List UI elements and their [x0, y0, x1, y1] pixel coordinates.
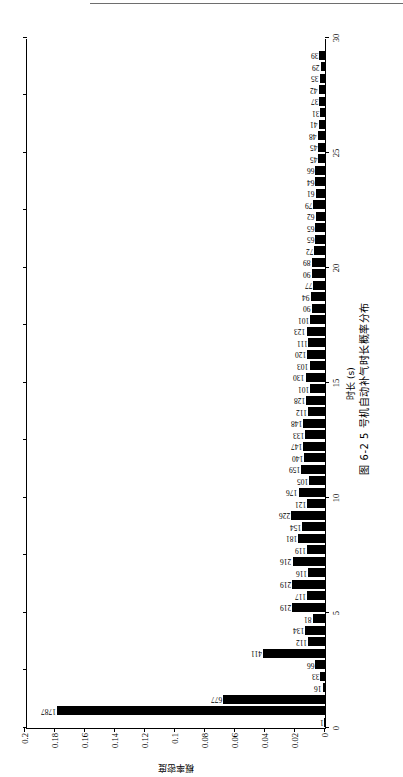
x-axis-minor-tick-top — [23, 210, 27, 211]
bar: 103 — [310, 361, 325, 370]
bar: 101 — [310, 384, 325, 393]
bar: 128 — [306, 396, 325, 405]
bar: 116 — [308, 568, 325, 577]
bar: 219 — [292, 603, 325, 612]
bar: 181 — [298, 534, 325, 543]
y-axis-tick — [234, 728, 235, 732]
bar-value-label: 29 — [312, 62, 320, 71]
bar-value-text: 133 — [293, 430, 304, 439]
bar-value-label: 79 — [305, 200, 313, 209]
bar: 89 — [312, 258, 325, 267]
bar: 77 — [313, 281, 325, 290]
bar-value-text: 35 — [311, 74, 319, 83]
bar-value-label: 62 — [307, 212, 315, 221]
bar-value-text: 66 — [307, 166, 315, 175]
bar-value-text: 45 — [310, 143, 318, 152]
bar-value-label: 147 — [291, 442, 302, 451]
bar-value-text: 45 — [310, 154, 318, 163]
bar-value-text: 29 — [312, 62, 320, 71]
y-axis-tick-label: 0.18 — [50, 733, 60, 748]
bar-value-label: 89 — [303, 258, 311, 267]
bar-value-text: 130 — [293, 373, 304, 382]
bar-value-text: 181 — [286, 534, 297, 543]
bar-value-text: 90 — [303, 269, 311, 278]
y-axis-tick — [84, 728, 85, 732]
bar-value-text: 140 — [292, 453, 303, 462]
bar-value-label: 219 — [280, 603, 291, 612]
bar: 411 — [263, 649, 325, 658]
y-axis-tick-label: 0.16 — [80, 733, 90, 748]
bar: 72 — [314, 246, 325, 255]
bar-value-label: 94 — [302, 292, 310, 301]
bar: 101 — [310, 315, 325, 324]
bar-value-text: 105 — [297, 476, 308, 485]
bar: 41 — [319, 120, 325, 129]
y-axis-tick — [294, 728, 295, 732]
bar-value-text: 159 — [289, 465, 300, 474]
bar: 48 — [318, 131, 325, 140]
bar: 140 — [304, 453, 325, 462]
bar: 33 — [320, 672, 325, 681]
bar: 16 — [323, 683, 325, 692]
x-axis-tick-label: 15 — [331, 379, 341, 388]
x-axis-tick — [325, 612, 329, 613]
x-axis-tick-label: 25 — [331, 149, 341, 158]
bar-value-text: 112 — [296, 637, 307, 646]
x-axis-tick-label: 0 — [331, 726, 341, 730]
x-axis-minor-tick-top — [23, 440, 27, 441]
y-axis-tick — [264, 728, 265, 732]
y-axis-tick — [174, 728, 175, 732]
x-axis-tick-top — [23, 727, 27, 728]
bar: 159 — [301, 465, 325, 474]
bar: 147 — [303, 442, 325, 451]
bar-value-label: 72 — [306, 246, 314, 255]
bar-value-text: 16 — [314, 683, 322, 692]
bar-value-label: 65 — [307, 223, 315, 232]
figure-inner: 00.020.040.060.080.10.120.140.160.180.2 … — [0, 0, 403, 777]
x-axis-tick — [325, 37, 329, 38]
bar-value-label: 77 — [305, 281, 313, 290]
bar: 66 — [315, 660, 325, 669]
bar-value-text: 72 — [306, 246, 314, 255]
bar: 677 — [223, 695, 325, 704]
bar-value-label: 33 — [312, 672, 320, 681]
y-axis-tick — [324, 728, 325, 732]
bar-value-label: 133 — [293, 430, 304, 439]
bar-value-label: 1 — [320, 718, 324, 727]
bar-value-label: 134 — [293, 626, 304, 635]
bar-value-text: 411 — [251, 649, 262, 658]
bar-value-text: 112 — [296, 407, 307, 416]
bar: 1 — [324, 718, 325, 727]
bar: 112 — [308, 407, 325, 416]
bar-value-text: 154 — [290, 522, 301, 531]
bar-value-label: 90 — [303, 304, 311, 313]
x-axis-tick-top — [23, 37, 27, 38]
bar-value-text: 61 — [307, 189, 315, 198]
bar-value-text: 134 — [293, 626, 304, 635]
x-axis-tick-top — [23, 497, 27, 498]
bar-value-text: 65 — [307, 223, 315, 232]
y-axis-tick-label: 0.08 — [200, 733, 210, 748]
bar: 90 — [312, 269, 326, 278]
bar-value-text: 101 — [298, 384, 309, 393]
bar-value-label: 101 — [298, 315, 309, 324]
bar: 119 — [307, 545, 325, 554]
bar-value-text: 677 — [211, 695, 222, 704]
bar-value-label: 112 — [296, 407, 307, 416]
x-axis-tick — [325, 382, 329, 383]
bar-value-text: 226 — [279, 511, 290, 520]
x-axis-minor-tick-top — [23, 95, 27, 96]
bar-value-label: 111 — [297, 338, 308, 347]
bar-value-text: 148 — [291, 419, 302, 428]
bar-value-label: 154 — [290, 522, 301, 531]
bar-value-text: 33 — [312, 672, 320, 681]
bar: 120 — [307, 350, 325, 359]
bar: 226 — [291, 511, 325, 520]
bar-value-text: 103 — [297, 361, 308, 370]
bar-value-label: 66 — [307, 166, 315, 175]
bar-value-label: 120 — [295, 350, 306, 359]
bar-value-text: 176 — [286, 488, 297, 497]
x-axis-minor-tick-top — [23, 555, 27, 556]
bar-value-label: 116 — [296, 568, 307, 577]
bar-value-text: 94 — [302, 292, 310, 301]
